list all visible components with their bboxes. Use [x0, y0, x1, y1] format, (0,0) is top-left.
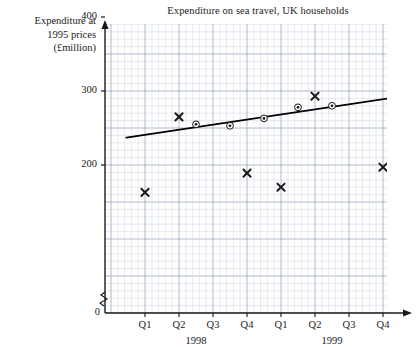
x-tick-label: Q4: [232, 319, 262, 330]
x-tick-label: Q1: [266, 319, 296, 330]
x-tick-label: Q2: [300, 319, 330, 330]
plot-area: [105, 24, 387, 313]
chart-title: Expenditure on sea travel, UK households: [118, 5, 398, 16]
grid-and-data: [105, 24, 387, 313]
x-axis-year-label: 1998: [166, 335, 226, 346]
y-axis-label-line-2: 1995 prices: [4, 28, 96, 42]
y-tick-label: 400: [67, 10, 97, 21]
y-tick-label: 200: [67, 158, 97, 169]
y-axis-zero-label: 0: [86, 306, 100, 317]
y-axis-label-line-3: (£million): [4, 41, 96, 55]
x-axis-year-label: 1999: [302, 335, 362, 346]
y-tick-label: 300: [67, 84, 97, 95]
x-tick-label: Q3: [198, 319, 228, 330]
chart-figure: Expenditure on sea travel, UK households…: [0, 0, 417, 347]
x-tick-label: Q1: [130, 319, 160, 330]
x-tick-label: Q2: [164, 319, 194, 330]
x-tick-label: Q4: [368, 319, 398, 330]
x-tick-label: Q3: [334, 319, 364, 330]
